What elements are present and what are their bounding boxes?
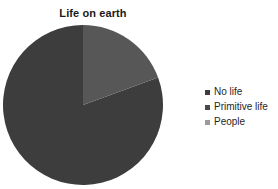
square-marker-icon <box>205 105 210 110</box>
pie-plot-area <box>0 22 180 189</box>
pie-svg <box>0 22 180 189</box>
chart-title: Life on earth <box>13 7 173 20</box>
chart-legend: No life Primitive life People <box>205 84 278 129</box>
legend-item-no-life[interactable]: No life <box>205 84 278 99</box>
legend-label-people: People <box>214 116 245 128</box>
legend-label-primitive-life: Primitive life <box>214 101 268 113</box>
square-marker-icon <box>205 120 210 125</box>
legend-item-people[interactable]: People <box>205 114 278 129</box>
legend-item-primitive-life[interactable]: Primitive life <box>205 99 278 114</box>
square-marker-icon <box>205 90 210 95</box>
legend-label-no-life: No life <box>214 86 242 98</box>
pie-chart: Life on earth No life Primitive life Peo… <box>0 0 278 189</box>
